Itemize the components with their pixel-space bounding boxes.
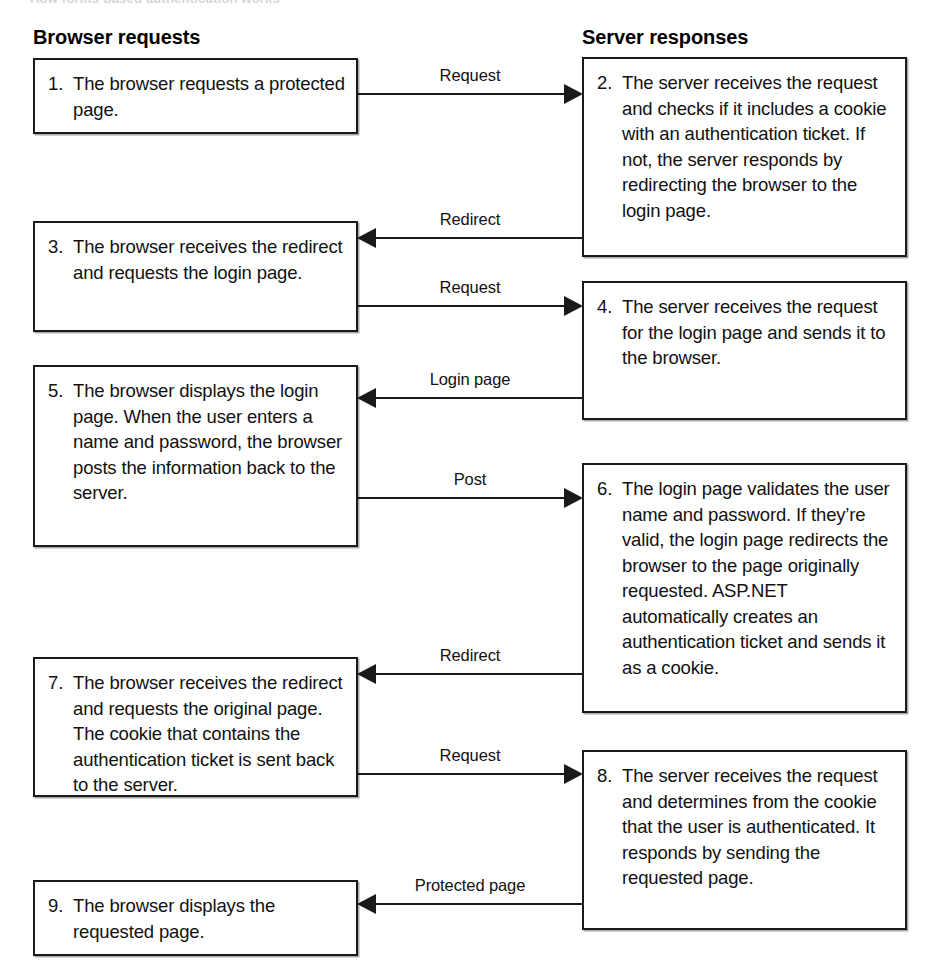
step-box-8: 8. The server receives the request and d… xyxy=(582,750,907,930)
arrow-label-request-7-to-8: Request xyxy=(358,746,582,765)
step-number-5: 5. xyxy=(48,378,73,506)
step-text-3: The browser receives the redirect and re… xyxy=(73,234,346,285)
step-number-6: 6. xyxy=(597,476,622,680)
arrow-login-page-4-to-5 xyxy=(358,387,582,409)
arrow-head-left-icon xyxy=(357,894,376,914)
step-box-1: 1. The browser requests a protected page… xyxy=(33,58,358,134)
step-text-5: The browser displays the login page. Whe… xyxy=(73,378,346,506)
step-text-9: The browser displays the requested page. xyxy=(73,893,346,944)
step-box-4: 4. The server receives the request for t… xyxy=(582,281,907,420)
step-number-9: 9. xyxy=(48,893,73,944)
arrow-label-login-page-4-to-5: Login page xyxy=(358,370,582,389)
arrow-head-left-icon xyxy=(357,664,376,684)
arrow-shaft xyxy=(358,305,568,307)
cropped-page-title: How forms-based authentication works xyxy=(0,0,934,14)
arrow-head-left-icon xyxy=(357,228,376,248)
arrow-shaft xyxy=(358,93,568,95)
step-text-8: The server receives the request and dete… xyxy=(622,763,895,891)
diagram-canvas: How forms-based authentication works Bro… xyxy=(0,0,934,972)
step-text-6: The login page validates the user name a… xyxy=(622,476,895,680)
arrow-head-right-icon xyxy=(564,764,583,784)
arrow-label-request-3-to-4: Request xyxy=(358,278,582,297)
arrow-label-request-1-to-2: Request xyxy=(358,66,582,85)
arrow-label-redirect-6-to-7: Redirect xyxy=(358,646,582,665)
step-box-6: 6. The login page validates the user nam… xyxy=(582,463,907,713)
column-header-browser-requests: Browser requests xyxy=(33,26,200,49)
arrow-head-right-icon xyxy=(564,84,583,104)
arrow-shaft xyxy=(372,903,582,905)
arrow-redirect-2-to-3 xyxy=(358,227,582,249)
step-box-7: 7. The browser receives the redirect and… xyxy=(33,657,358,797)
arrow-post-5-to-6 xyxy=(358,487,582,509)
arrow-head-left-icon xyxy=(357,388,376,408)
arrow-shaft xyxy=(372,673,582,675)
step-number-8: 8. xyxy=(597,763,622,891)
arrow-redirect-6-to-7 xyxy=(358,663,582,685)
step-number-7: 7. xyxy=(48,670,73,798)
arrow-label-protected-page-8-to-9: Protected page xyxy=(358,876,582,895)
step-number-1: 1. xyxy=(48,71,73,122)
arrow-shaft xyxy=(358,773,568,775)
step-number-3: 3. xyxy=(48,234,73,285)
step-box-2: 2. The server receives the request and c… xyxy=(582,57,907,257)
arrow-protected-page-8-to-9 xyxy=(358,893,582,915)
arrow-request-7-to-8 xyxy=(358,763,582,785)
arrow-shaft xyxy=(372,237,582,239)
step-box-9: 9. The browser displays the requested pa… xyxy=(33,880,358,956)
step-text-4: The server receives the request for the … xyxy=(622,294,895,371)
arrow-head-right-icon xyxy=(564,296,583,316)
step-number-2: 2. xyxy=(597,70,622,223)
arrow-shaft xyxy=(372,397,582,399)
arrow-head-right-icon xyxy=(564,488,583,508)
column-header-server-responses: Server responses xyxy=(582,26,748,49)
step-text-2: The server receives the request and chec… xyxy=(622,70,895,223)
arrow-label-redirect-2-to-3: Redirect xyxy=(358,210,582,229)
arrow-shaft xyxy=(358,497,568,499)
arrow-label-post-5-to-6: Post xyxy=(358,470,582,489)
step-box-5: 5. The browser displays the login page. … xyxy=(33,365,358,547)
step-text-7: The browser receives the redirect and re… xyxy=(73,670,346,798)
arrow-request-1-to-2 xyxy=(358,83,582,105)
step-text-1: The browser requests a protected page. xyxy=(73,71,346,122)
step-box-3: 3. The browser receives the redirect and… xyxy=(33,221,358,332)
step-number-4: 4. xyxy=(597,294,622,371)
arrow-request-3-to-4 xyxy=(358,295,582,317)
